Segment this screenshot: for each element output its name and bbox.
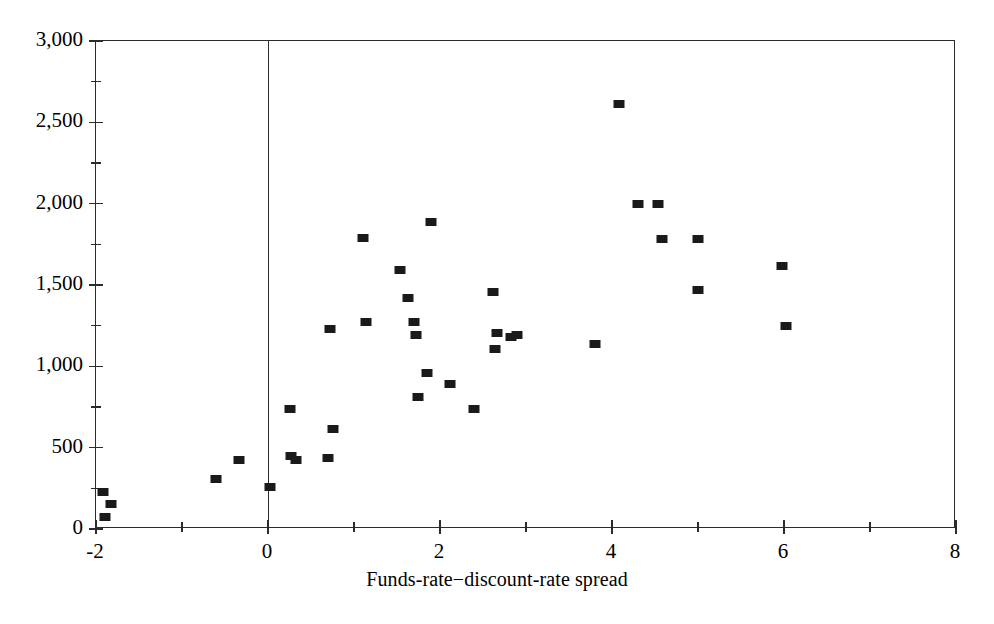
data-point: [97, 488, 108, 496]
data-point: [589, 340, 600, 348]
y-axis-tick-label: 2,000: [36, 192, 83, 213]
data-point: [264, 483, 275, 491]
x-axis-tick: [783, 520, 784, 534]
data-point: [488, 288, 499, 296]
data-point: [395, 266, 406, 274]
data-point: [233, 456, 244, 464]
x-axis-tick: [611, 520, 612, 534]
data-point: [512, 331, 523, 339]
data-point: [656, 235, 667, 243]
x-axis-minor-tick: [181, 522, 182, 532]
y-axis-tick: [89, 366, 103, 367]
y-axis-tick-label: 2,500: [36, 110, 83, 131]
y-axis-minor-tick: [91, 244, 101, 245]
data-point: [323, 454, 334, 462]
data-point: [777, 262, 788, 270]
data-point: [422, 369, 433, 377]
data-point: [445, 380, 456, 388]
x-axis-tick: [267, 520, 268, 534]
scatter-plot-figure: 05001,0001,5002,0002,5003,000 -202468 Fu…: [0, 0, 994, 624]
data-point: [328, 425, 339, 433]
y-axis-tick-label: 1,500: [36, 273, 83, 294]
y-axis-tick: [89, 203, 103, 204]
x-axis-minor-tick: [353, 522, 354, 532]
data-point: [324, 325, 335, 333]
plot-frame: [95, 40, 955, 528]
x-axis-tick-label: 6: [753, 541, 813, 562]
data-point: [403, 294, 414, 302]
data-point: [491, 329, 502, 337]
y-axis-tick-label: 3,000: [36, 29, 83, 50]
data-point: [106, 500, 117, 508]
data-point: [291, 456, 302, 464]
y-axis-tick-label: 0: [73, 517, 84, 538]
y-axis-tick-label: 500: [52, 436, 84, 457]
data-point: [613, 100, 624, 108]
data-point: [409, 318, 420, 326]
data-point: [285, 405, 296, 413]
x-axis-tick-label: 0: [237, 541, 297, 562]
x-axis-tick-label: 8: [925, 541, 985, 562]
x-axis-tick: [955, 520, 956, 534]
x-axis-tick-label: 2: [409, 541, 469, 562]
y-axis-minor-tick: [91, 162, 101, 163]
y-axis-tick: [89, 284, 103, 285]
data-point: [412, 393, 423, 401]
data-point: [653, 200, 664, 208]
x-axis-tick-label: -2: [65, 541, 125, 562]
y-axis-tick: [89, 447, 103, 448]
zero-reference-line: [268, 41, 269, 527]
data-point: [361, 318, 372, 326]
x-axis-tick: [95, 520, 96, 534]
y-axis-minor-tick: [91, 81, 101, 82]
data-point: [410, 331, 421, 339]
x-axis-minor-tick: [697, 522, 698, 532]
y-axis-tick: [89, 40, 103, 41]
data-point: [426, 218, 437, 226]
data-point: [780, 322, 791, 330]
x-axis-title: Funds-rate−discount-rate spread: [0, 568, 994, 591]
data-point: [490, 345, 501, 353]
data-point: [469, 405, 480, 413]
data-point: [693, 286, 704, 294]
y-axis-minor-tick: [91, 406, 101, 407]
x-axis-minor-tick: [869, 522, 870, 532]
x-axis-tick: [439, 520, 440, 534]
data-point: [632, 200, 643, 208]
data-point: [357, 234, 368, 242]
x-axis-tick-label: 4: [581, 541, 641, 562]
y-axis-tick-label: 1,000: [36, 354, 83, 375]
y-axis-minor-tick: [91, 325, 101, 326]
data-point: [211, 475, 222, 483]
data-point: [693, 235, 704, 243]
x-axis-minor-tick: [525, 522, 526, 532]
y-axis-tick: [89, 122, 103, 123]
data-point: [99, 513, 110, 521]
